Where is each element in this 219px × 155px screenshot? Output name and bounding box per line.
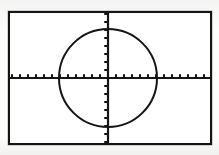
x-axis bbox=[10, 74, 210, 78]
calculator-screenshot bbox=[0, 0, 219, 155]
graph-plot-area bbox=[10, 13, 210, 143]
graph-canvas bbox=[10, 13, 210, 143]
calculator-screen-frame bbox=[8, 11, 212, 145]
